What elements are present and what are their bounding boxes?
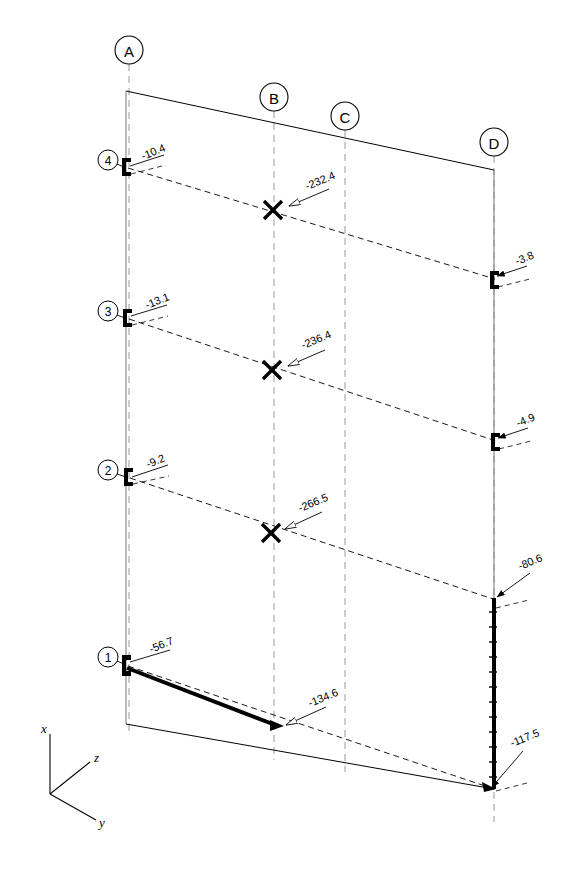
axis-y-label: y [97, 815, 105, 830]
value-label-lvl2-mid: -266.5 [296, 491, 329, 514]
end-marker-right-level-3 [491, 433, 500, 451]
level-bubble-3[interactable]: 3 [98, 301, 125, 321]
cross-marker-level-2 [262, 524, 280, 542]
node-triangle-b-bottom [270, 720, 284, 731]
leader-beam-b1 [286, 707, 326, 725]
leader-lvl3-right [498, 428, 528, 438]
level-bubble-2-label: 2 [105, 464, 112, 478]
grid-bubble-A-label: A [124, 43, 134, 60]
grid-bubble-C-label: C [340, 109, 351, 126]
level-bubble-4[interactable]: 4 [98, 150, 124, 170]
grid-bubble-D[interactable]: D [480, 128, 508, 156]
level-bubble-1[interactable]: 1 [98, 647, 124, 667]
level-bubble-3-label: 3 [105, 305, 112, 319]
tail-lvl2-left [133, 476, 169, 484]
axis-z-line [50, 762, 90, 794]
level-bubble-4-label: 4 [105, 154, 112, 168]
heavy-members-group [127, 598, 497, 789]
frame-elevation-svg: A B C D 4 3 [0, 0, 584, 876]
frame-top-edge [126, 91, 494, 170]
tail-lvl4-left [131, 165, 166, 174]
grid-bubble-B[interactable]: B [260, 83, 288, 111]
axis-x-label: x [40, 721, 47, 736]
leader-level-3-mid [288, 350, 325, 366]
cross-markers-group [262, 201, 282, 542]
level-bubble-2[interactable]: 2 [98, 460, 126, 480]
leader-base-col-d [492, 751, 523, 787]
value-label-lvl3-right: -4.9 [514, 411, 536, 429]
frame-bottom-edge [126, 724, 494, 789]
leader-base-right [497, 573, 530, 597]
value-label-lvl4-right: -3.8 [513, 249, 535, 267]
tail-base-right [496, 600, 529, 608]
value-label-lvl3-mid: -236.4 [299, 328, 332, 351]
leader-lvl4-right [497, 266, 527, 276]
leader-level-2-mid [285, 512, 322, 529]
cross-marker-level-3 [263, 361, 281, 379]
axis-triad: x z y [40, 721, 105, 830]
frame-outline-group [126, 91, 494, 789]
structural-diagram-canvas: A B C D 4 3 [0, 0, 584, 876]
midspan-leader-lines [285, 189, 329, 725]
level-bubble-1-label: 1 [105, 651, 112, 665]
value-label-lvl1-left: -56.7 [147, 634, 175, 655]
left-column-end-markers [122, 158, 133, 676]
value-label-beam-b1: -134.6 [306, 686, 339, 709]
tail-lvl3-left [132, 316, 168, 325]
grid-bubbles-group: A B C D [115, 36, 508, 156]
value-label-lvl4-mid: -232.4 [303, 169, 336, 192]
heavy-beam-level-1-A-B [127, 668, 278, 726]
tail-lvl4-right [498, 279, 530, 287]
beam-level-1-deflected [128, 666, 494, 789]
axis-z-label: z [93, 750, 99, 765]
grid-bubble-A[interactable]: A [115, 36, 143, 64]
grid-bubble-D-label: D [489, 135, 500, 152]
right-column-end-markers [490, 271, 500, 451]
level-bubbles-group: 4 3 2 1 [98, 150, 126, 667]
leader-level-4-mid [289, 189, 329, 206]
axis-y-line [50, 794, 96, 820]
tail-lvl3-right [499, 441, 531, 449]
grid-bubble-B-label: B [269, 90, 279, 107]
tail-base-col-d [496, 783, 527, 791]
supports-group [270, 720, 496, 792]
value-label-base-right: -80.6 [516, 551, 544, 572]
grid-bubble-C[interactable]: C [331, 102, 359, 130]
value-label-base-col-d: -117.5 [508, 726, 541, 749]
